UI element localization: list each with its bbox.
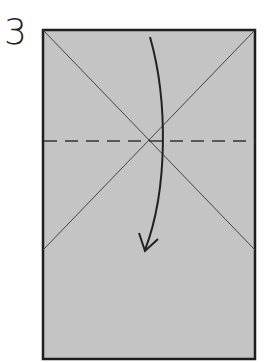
- paper-rectangle: [43, 30, 255, 359]
- diagram-canvas: [0, 0, 275, 362]
- origami-step-diagram: 3: [0, 0, 275, 362]
